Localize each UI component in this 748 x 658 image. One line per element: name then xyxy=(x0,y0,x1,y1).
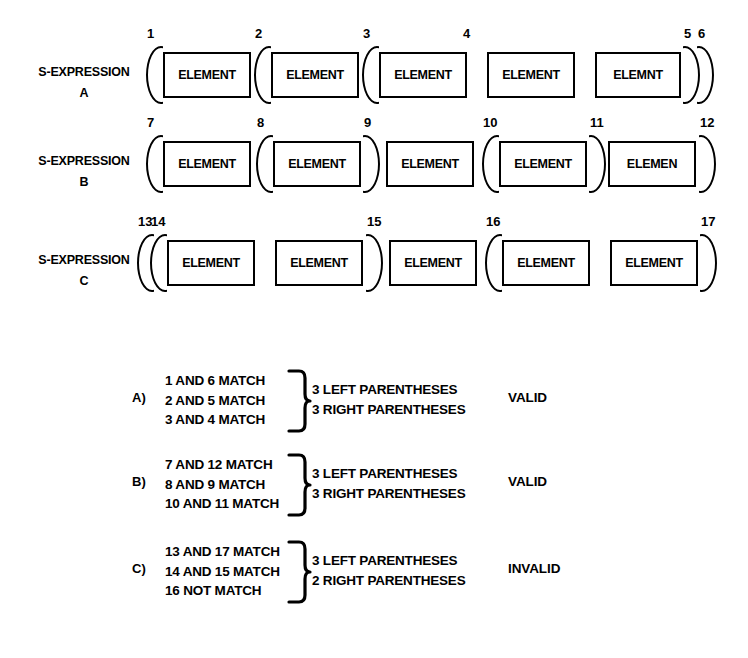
element-box-label: ELEMENT xyxy=(290,256,348,270)
paren-right-12 xyxy=(699,135,716,193)
element-box: ELEMENT xyxy=(163,52,251,98)
s-expression-parenthesis-matching-diagram: { "diagram": { "title": "S-Expression pa… xyxy=(0,0,748,658)
element-box: ELEMENT xyxy=(386,141,474,187)
element-box-label: ELEMENT xyxy=(404,256,462,270)
legend-verdict: INVALID xyxy=(508,561,560,576)
paren-left-16 xyxy=(485,234,502,292)
element-box-label: ELEMENT xyxy=(178,157,236,171)
element-box: ELEMENT xyxy=(389,240,477,286)
paren-right-17 xyxy=(700,234,717,292)
legend-match-list: 7 AND 12 MATCH8 AND 9 MATCH10 AND 11 MAT… xyxy=(165,455,279,514)
legend-summary-list: 3 LEFT PARENTHESES2 RIGHT PARENTHESES xyxy=(312,551,465,590)
legend-match-line: 3 AND 4 MATCH xyxy=(165,410,265,430)
paren-number-label: 5 xyxy=(684,28,691,40)
legend-match-line: 14 AND 15 MATCH xyxy=(165,562,280,582)
paren-right-11 xyxy=(589,135,606,193)
legend-verdict: VALID xyxy=(508,474,547,489)
legend-summary-line: 2 RIGHT PARENTHESES xyxy=(312,571,465,591)
element-box-label: ELEMENT xyxy=(286,68,344,82)
paren-number-label: 3 xyxy=(363,28,370,40)
paren-left-7 xyxy=(146,135,163,193)
element-box: ELEMENT xyxy=(487,52,575,98)
paren-right-9 xyxy=(363,135,380,193)
element-box: ELEMENT xyxy=(502,240,590,286)
element-box-label: ELEMENT xyxy=(514,157,572,171)
paren-number-label: 4 xyxy=(463,28,470,40)
legend-match-line: 7 AND 12 MATCH xyxy=(165,455,279,475)
paren-left-2 xyxy=(254,46,271,104)
legend-verdict: VALID xyxy=(508,390,547,405)
paren-number-label: 8 xyxy=(257,117,264,129)
paren-number-label: 12 xyxy=(700,117,714,129)
paren-number-label: 6 xyxy=(698,28,705,40)
legend-match-line: 2 AND 5 MATCH xyxy=(165,391,265,411)
sexp-row-c: S-EXPRESSIONC1314ELEMENTELEMENT15ELEMENT… xyxy=(0,226,748,321)
curly-brace-icon xyxy=(286,539,312,605)
element-box-label: ELEMENT xyxy=(517,256,575,270)
sexp-row-b: S-EXPRESSIONB7ELEMENT8ELEMENT9ELEMENT10E… xyxy=(0,127,748,222)
element-box: ELEMENT xyxy=(271,52,359,98)
element-box: ELEMENT xyxy=(275,240,363,286)
element-box: ELEMENT xyxy=(163,141,251,187)
paren-number-label: 10 xyxy=(483,117,497,129)
element-box: ELEMEN xyxy=(608,141,696,187)
legend-match-line: 10 AND 11 MATCH xyxy=(165,494,279,514)
paren-number-label: 17 xyxy=(701,216,715,228)
legend-summary-line: 3 LEFT PARENTHESES xyxy=(312,464,465,484)
legend-match-list: 1 AND 6 MATCH2 AND 5 MATCH3 AND 4 MATCH xyxy=(165,371,265,430)
element-box-label: ELEMENT xyxy=(182,256,240,270)
legend-group-b: B)7 AND 12 MATCH8 AND 9 MATCH10 AND 11 M… xyxy=(0,450,748,530)
legend-summary-list: 3 LEFT PARENTHESES3 RIGHT PARENTHESES xyxy=(312,464,465,503)
legend-summary-line: 3 LEFT PARENTHESES xyxy=(312,551,465,571)
paren-number-label: 11 xyxy=(590,117,604,129)
legend-key: C) xyxy=(132,561,146,576)
element-box-label: ELEMENT xyxy=(502,68,560,82)
sexp-token-track: 1ELEMENT2ELEMENT3ELEMENT4ELEMENTELEMNT56 xyxy=(0,38,748,133)
element-box: ELEMENT xyxy=(610,240,698,286)
element-box-label: ELEMENT xyxy=(178,68,236,82)
element-box: ELEMENT xyxy=(167,240,255,286)
legend-match-line: 1 AND 6 MATCH xyxy=(165,371,265,391)
paren-number-label: 2 xyxy=(255,28,262,40)
legend-key: B) xyxy=(132,474,146,489)
legend-summary-line: 3 RIGHT PARENTHESES xyxy=(312,484,465,504)
paren-left-3 xyxy=(362,46,379,104)
sexp-token-track: 1314ELEMENTELEMENT15ELEMENT16ELEMENTELEM… xyxy=(0,226,748,321)
element-box-label: ELEMENT xyxy=(401,157,459,171)
legend-match-line: 8 AND 9 MATCH xyxy=(165,475,279,495)
paren-right-6 xyxy=(697,46,714,104)
curly-brace-icon xyxy=(286,368,312,434)
legend-group-a: A)1 AND 6 MATCH2 AND 5 MATCH3 AND 4 MATC… xyxy=(0,366,748,446)
sexp-token-track: 7ELEMENT8ELEMENT9ELEMENT10ELEMENT11ELEME… xyxy=(0,127,748,222)
legend-summary-line: 3 RIGHT PARENTHESES xyxy=(312,400,465,420)
paren-left-8 xyxy=(256,135,273,193)
sexp-row-a: S-EXPRESSIONA1ELEMENT2ELEMENT3ELEMENT4EL… xyxy=(0,38,748,133)
legend-match-list: 13 AND 17 MATCH14 AND 15 MATCH16 NOT MAT… xyxy=(165,542,280,601)
element-box: ELEMENT xyxy=(499,141,587,187)
paren-right-15 xyxy=(366,234,383,292)
element-box-label: ELEMENT xyxy=(288,157,346,171)
paren-left-1 xyxy=(146,46,163,104)
legend-match-line: 16 NOT MATCH xyxy=(165,581,280,601)
element-box-label: ELEMNT xyxy=(613,68,663,82)
paren-number-label: 14 xyxy=(151,216,165,228)
element-box-label: ELEMEN xyxy=(627,157,677,171)
paren-number-label: 16 xyxy=(486,216,500,228)
element-box: ELEMENT xyxy=(273,141,361,187)
paren-left-10 xyxy=(482,135,499,193)
paren-number-label: 7 xyxy=(147,117,154,129)
curly-brace-icon xyxy=(286,452,312,518)
element-box-label: ELEMENT xyxy=(625,256,683,270)
element-box: ELEMENT xyxy=(379,52,467,98)
legend-group-c: C)13 AND 17 MATCH14 AND 15 MATCH16 NOT M… xyxy=(0,537,748,617)
paren-number-label: 15 xyxy=(367,216,381,228)
paren-number-label: 1 xyxy=(147,28,154,40)
paren-left-14 xyxy=(150,234,167,292)
paren-number-label: 9 xyxy=(364,117,371,129)
legend-summary-list: 3 LEFT PARENTHESES3 RIGHT PARENTHESES xyxy=(312,380,465,419)
element-box-label: ELEMENT xyxy=(394,68,452,82)
legend-key: A) xyxy=(132,390,146,405)
legend-summary-line: 3 LEFT PARENTHESES xyxy=(312,380,465,400)
element-box: ELEMNT xyxy=(595,52,681,98)
legend-match-line: 13 AND 17 MATCH xyxy=(165,542,280,562)
